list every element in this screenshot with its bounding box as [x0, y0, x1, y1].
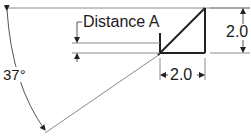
distance-a-label: Distance A [83, 14, 159, 30]
right-triangle [158, 8, 205, 55]
height-dimension-label: 2.0 [226, 24, 248, 40]
width-dimension-label: 2.0 [170, 67, 192, 83]
distance-a-leader [77, 22, 82, 42]
hypotenuse-extension-line [45, 54, 160, 133]
angle-label: 37° [3, 67, 26, 82]
